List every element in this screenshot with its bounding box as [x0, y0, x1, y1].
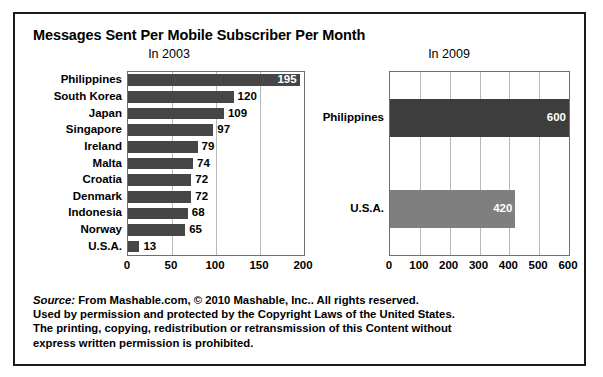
source-note: Source: From Mashable.com, © 2010 Mashab…	[33, 293, 574, 350]
category-label-japan: Japan	[25, 108, 122, 120]
bar-value-label: 68	[192, 207, 205, 219]
bar-row: 97	[128, 124, 304, 136]
gridline	[304, 72, 305, 255]
x-axis-tick-label: 100	[205, 259, 224, 271]
category-label-norway: Norway	[25, 224, 122, 236]
bar-value-label: 79	[202, 141, 215, 153]
bar-row: 72	[128, 191, 304, 203]
bar-row: 74	[128, 158, 304, 170]
category-label-malta: Malta	[25, 158, 122, 170]
plot-area-2003: 1951201099779747272686513	[127, 71, 305, 256]
bar-row: 68	[128, 208, 304, 220]
category-label-u-s-a: U.S.A.	[320, 203, 384, 215]
bar-ireland	[128, 141, 198, 153]
bar-value-label: 420	[493, 203, 512, 215]
bar-singapore	[128, 124, 213, 136]
category-label-philippines: Philippines	[25, 74, 122, 86]
bar-row: 65	[128, 224, 304, 236]
bar-row: 420	[390, 190, 569, 228]
bar-malta	[128, 158, 193, 170]
category-label-south-korea: South Korea	[25, 91, 122, 103]
source-text-1: From Mashable.com, © 2010 Mashable, Inc.…	[78, 294, 419, 306]
x-axis-tick-label: 200	[293, 259, 312, 271]
source-line-1: Source: From Mashable.com, © 2010 Mashab…	[33, 293, 574, 307]
bars-layer: 1951201099779747272686513	[128, 72, 304, 255]
gridline	[569, 72, 570, 255]
source-label: Source:	[33, 294, 75, 306]
bar-philippines	[128, 74, 300, 86]
bar-value-label: 74	[197, 158, 210, 170]
bar-row: 600	[390, 99, 569, 137]
x-axis-tick-label: 50	[165, 259, 178, 271]
x-axis-tick-label: 400	[499, 259, 518, 271]
chart-panel-2009: In 2009 600420 PhilippinesU.S.A.01002003…	[320, 47, 578, 287]
bar-value-label: 65	[189, 224, 202, 236]
bar-row: 72	[128, 174, 304, 186]
x-axis-tick-label: 500	[529, 259, 548, 271]
x-axis-tick-label: 300	[469, 259, 488, 271]
bar-row: 195	[128, 74, 304, 86]
category-label-indonesia: Indonesia	[25, 207, 122, 219]
chart-panel-2003: In 2003 1951201099779747272686513 Philip…	[25, 47, 313, 287]
bar-row: 79	[128, 141, 304, 153]
bar-denmark	[128, 191, 191, 203]
category-label-singapore: Singapore	[25, 124, 122, 136]
category-label-philippines: Philippines	[320, 112, 384, 124]
category-label-denmark: Denmark	[25, 191, 122, 203]
bar-value-label: 13	[143, 241, 156, 253]
bar-value-label: 195	[277, 74, 296, 86]
bar-u-s-a	[128, 241, 139, 253]
bar-indonesia	[128, 208, 188, 220]
bars-layer: 600420	[390, 72, 569, 255]
source-line-3: The printing, copying, redistribution or…	[33, 321, 574, 335]
category-label-croatia: Croatia	[25, 174, 122, 186]
bar-row: 13	[128, 241, 304, 253]
category-label-ireland: Ireland	[25, 141, 122, 153]
bar-japan	[128, 108, 224, 120]
x-axis-tick-label: 150	[249, 259, 268, 271]
source-line-2: Used by permission and protected by the …	[33, 307, 574, 321]
bar-philippines	[390, 99, 569, 137]
chart-subtitle-2009: In 2009	[320, 47, 578, 61]
bar-value-label: 600	[547, 112, 566, 124]
x-axis-tick-label: 100	[409, 259, 428, 271]
bar-value-label: 109	[228, 108, 247, 120]
chart-figure: Messages Sent Per Mobile Subscriber Per …	[13, 12, 586, 366]
bar-value-label: 72	[195, 191, 208, 203]
x-axis-tick-label: 600	[558, 259, 577, 271]
bar-value-label: 97	[217, 124, 230, 136]
x-axis-tick-label: 0	[124, 259, 130, 271]
bar-value-label: 72	[195, 174, 208, 186]
bar-croatia	[128, 174, 191, 186]
bar-norway	[128, 224, 185, 236]
source-line-4: express written permission is prohibited…	[33, 336, 574, 350]
bar-south-korea	[128, 91, 234, 103]
bar-row: 109	[128, 108, 304, 120]
x-axis-tick-label: 0	[386, 259, 392, 271]
page-title: Messages Sent Per Mobile Subscriber Per …	[33, 27, 365, 43]
bar-row: 120	[128, 91, 304, 103]
chart-subtitle-2003: In 2003	[25, 47, 313, 61]
x-axis-tick-label: 200	[439, 259, 458, 271]
category-label-u-s-a: U.S.A.	[25, 241, 122, 253]
bar-value-label: 120	[238, 91, 257, 103]
plot-area-2009: 600420	[389, 71, 570, 256]
